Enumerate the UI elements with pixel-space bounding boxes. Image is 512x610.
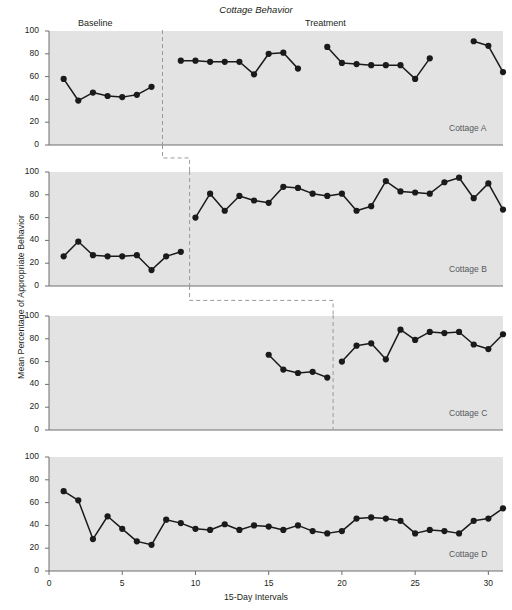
data-point — [266, 51, 272, 57]
data-point — [90, 252, 96, 258]
data-point — [207, 527, 213, 533]
data-point — [485, 180, 491, 186]
data-point — [222, 521, 228, 527]
data-point — [280, 527, 286, 533]
data-point — [163, 517, 169, 523]
panel-background — [49, 31, 503, 145]
data-point — [339, 60, 345, 66]
data-point — [134, 538, 140, 544]
data-point — [353, 61, 359, 67]
y-tick-label: 60 — [13, 356, 39, 366]
data-point — [236, 59, 242, 65]
y-tick-label: 0 — [13, 280, 39, 290]
panel-cottage-c — [45, 315, 506, 430]
data-point — [500, 331, 506, 337]
phase-connector — [163, 145, 190, 172]
x-tick-label: 5 — [110, 578, 134, 588]
data-point — [383, 178, 389, 184]
y-tick-label: 80 — [13, 474, 39, 484]
data-point — [295, 185, 301, 191]
y-tick-label: 100 — [13, 25, 39, 35]
data-point — [119, 94, 125, 100]
data-point — [266, 523, 272, 529]
data-point — [397, 327, 403, 333]
data-point — [368, 203, 374, 209]
data-point — [61, 488, 67, 494]
data-point — [353, 343, 359, 349]
data-point — [134, 92, 140, 98]
data-point — [222, 208, 228, 214]
data-point — [251, 522, 257, 528]
y-tick-label: 40 — [13, 519, 39, 529]
data-point — [104, 93, 110, 99]
data-point — [119, 253, 125, 259]
panel-background — [49, 457, 503, 571]
y-tick-label: 80 — [13, 333, 39, 343]
data-point — [368, 514, 374, 520]
y-tick-label: 20 — [13, 401, 39, 411]
data-point — [412, 337, 418, 343]
data-point — [485, 346, 491, 352]
y-tick-label: 20 — [13, 257, 39, 267]
y-tick-label: 80 — [13, 48, 39, 58]
data-point — [471, 38, 477, 44]
data-point — [192, 215, 198, 221]
data-point — [75, 497, 81, 503]
data-point — [324, 374, 330, 380]
data-point — [207, 191, 213, 197]
data-point — [61, 253, 67, 259]
data-point — [339, 528, 345, 534]
data-point — [75, 97, 81, 103]
data-point — [236, 527, 242, 533]
data-point — [456, 175, 462, 181]
data-point — [222, 59, 228, 65]
data-point — [90, 89, 96, 95]
data-point — [427, 191, 433, 197]
data-point — [383, 62, 389, 68]
data-point — [500, 69, 506, 75]
data-point — [295, 370, 301, 376]
panel-tag-cottage-c: Cottage C — [449, 408, 487, 418]
x-tick-label: 20 — [330, 578, 354, 588]
data-point — [266, 200, 272, 206]
data-point — [163, 253, 169, 259]
data-point — [310, 528, 316, 534]
data-point — [471, 341, 477, 347]
x-tick-label: 30 — [476, 578, 500, 588]
data-point — [280, 184, 286, 190]
data-point — [485, 515, 491, 521]
data-point — [192, 526, 198, 532]
data-point — [427, 527, 433, 533]
data-point — [251, 197, 257, 203]
data-point — [441, 330, 447, 336]
data-point — [266, 352, 272, 358]
y-tick-label: 40 — [13, 234, 39, 244]
data-point — [148, 542, 154, 548]
y-tick-label: 0 — [13, 424, 39, 434]
data-point — [236, 193, 242, 199]
data-point — [339, 359, 345, 365]
data-point — [412, 189, 418, 195]
data-point — [324, 193, 330, 199]
y-tick-label: 100 — [13, 451, 39, 461]
panel-cottage-b — [45, 171, 506, 286]
panel-tag-cottage-a: Cottage A — [449, 123, 486, 133]
data-point — [427, 55, 433, 61]
data-point — [383, 515, 389, 521]
panel-tag-cottage-b: Cottage B — [449, 264, 487, 274]
data-point — [324, 530, 330, 536]
data-point — [324, 44, 330, 50]
data-point — [353, 208, 359, 214]
data-point — [295, 66, 301, 72]
panel-cottage-d — [45, 457, 506, 575]
data-point — [90, 536, 96, 542]
data-point — [310, 369, 316, 375]
panel-cottage-a — [45, 30, 506, 145]
y-tick-label: 100 — [13, 310, 39, 320]
data-point — [471, 195, 477, 201]
panel-tag-cottage-d: Cottage D — [449, 549, 487, 559]
data-point — [368, 62, 374, 68]
y-tick-label: 100 — [13, 166, 39, 176]
data-point — [178, 520, 184, 526]
data-point — [178, 249, 184, 255]
